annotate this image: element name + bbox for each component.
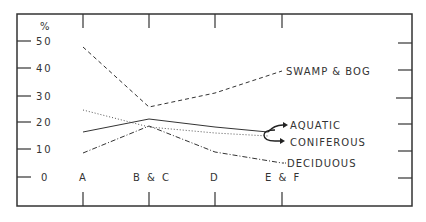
x-tick-ef: E & F <box>265 172 301 183</box>
line-chart: % 50 40 30 20 10 0 A B & C D E & F SWAMP… <box>0 0 426 222</box>
y-tick-40: 40 <box>36 63 53 74</box>
series-deciduous <box>83 126 282 163</box>
bottom-ticks <box>83 192 282 206</box>
series-swamp-bog <box>83 47 282 107</box>
label-aquatic: AQUATIC <box>290 120 341 131</box>
y-tick-20: 20 <box>36 117 53 128</box>
arrow-bracket-icon <box>264 122 288 144</box>
y-tick-0: 0 <box>41 172 49 183</box>
x-tick-d: D <box>210 172 220 183</box>
left-ticks <box>17 41 31 177</box>
y-tick-30: 30 <box>36 91 53 102</box>
x-tick-a: A <box>79 172 88 183</box>
y-unit-label: % <box>40 21 52 32</box>
top-ticks <box>83 14 282 28</box>
label-coniferous: CONIFEROUS <box>290 137 366 148</box>
label-deciduous: DECIDUOUS <box>287 158 357 169</box>
y-tick-50: 50 <box>36 36 53 47</box>
x-tick-bc: B & C <box>133 172 171 183</box>
series-coniferous <box>83 110 268 136</box>
right-ticks <box>396 43 412 178</box>
series-aquatic <box>83 119 268 132</box>
y-tick-10: 10 <box>36 144 53 155</box>
label-swamp-bog: SWAMP & BOG <box>286 66 371 77</box>
